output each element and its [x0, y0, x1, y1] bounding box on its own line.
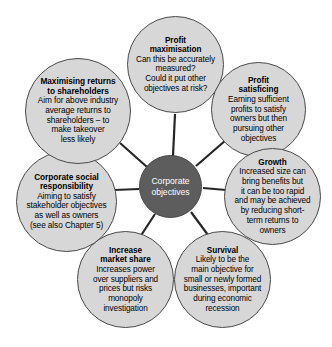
spoke-to-survival — [191, 212, 208, 235]
spoke-to-maximising-returns — [120, 143, 147, 167]
hub-corporate-objectives[interactable]: Corporate objectives — [139, 155, 202, 218]
node-title: Survival — [207, 246, 238, 256]
spoke-to-profit-maximisation — [173, 114, 175, 156]
node-body: Increases power over suppliers and price… — [93, 265, 158, 314]
node-title: Increase market share — [100, 246, 150, 265]
node-body: Aim for above industry average returns t… — [38, 96, 118, 145]
node-body: Earning sufficient profits to satisfy ow… — [228, 95, 289, 144]
spoke-to-profit-satisficing — [196, 140, 226, 166]
node-body: Increased size can bring benefits but it… — [235, 167, 311, 235]
spoke-to-corporate-social-responsibility — [114, 189, 139, 190]
spoke-to-growth — [203, 188, 226, 190]
corporate-objectives-diagram: Profit maximisation Can this be accurate… — [0, 0, 332, 347]
node-profit-maximisation[interactable]: Profit maximisation Can this be accurate… — [127, 16, 224, 113]
node-maximising-returns-to-shareholders[interactable]: Maximising returns to shareholders Aim f… — [25, 58, 131, 164]
node-body: Aiming to satisfy stakeholder objectives… — [27, 192, 107, 231]
node-survival[interactable]: Survival Likely to be the main objective… — [174, 231, 271, 328]
node-body: Likely to be the main objective for smal… — [184, 255, 262, 313]
node-increase-market-share[interactable]: Increase market share Increases power ov… — [77, 231, 174, 328]
hub-label: Corporate objectives — [151, 176, 189, 197]
node-corporate-social-responsibility[interactable]: Corporate social responsibility Aiming t… — [16, 151, 117, 252]
node-title: Profit satisficing — [239, 76, 279, 95]
node-title: Growth — [258, 158, 286, 168]
node-title: Profit maximisation — [150, 36, 202, 55]
node-body: Can this be accurately measured? Could i… — [136, 55, 215, 94]
node-title: Maximising returns to shareholders — [40, 77, 115, 96]
node-growth[interactable]: Growth Increased size can bring benefits… — [224, 148, 321, 245]
node-profit-satisficing[interactable]: Profit satisficing Earning sufficient pr… — [211, 62, 306, 157]
node-title: Corporate social responsibility — [34, 173, 99, 192]
